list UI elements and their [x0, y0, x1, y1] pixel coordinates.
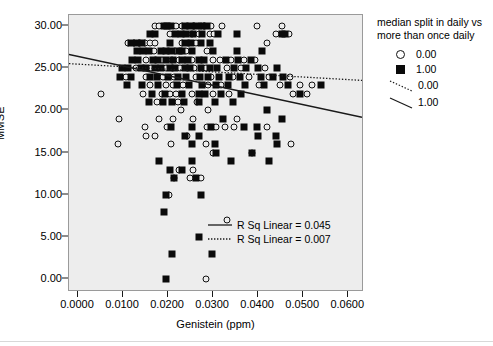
data-point-square [210, 48, 217, 55]
page-bottom-rule [0, 341, 493, 342]
data-point-square [155, 56, 162, 63]
data-point-square [182, 132, 189, 139]
data-point-square [233, 31, 240, 38]
data-point-square [174, 82, 181, 89]
data-point-circle [98, 90, 105, 97]
data-point-circle [210, 90, 217, 97]
data-point-square [206, 39, 213, 46]
data-point-square [189, 124, 196, 131]
data-point-square [235, 56, 242, 63]
data-point-square [163, 191, 170, 198]
data-point-circle [167, 141, 174, 148]
data-point-square [203, 22, 210, 29]
x-tick-label: 0.0300 [195, 298, 229, 310]
r-squared-row-dotted: R Sq Linear = 0.007 [208, 232, 331, 246]
data-point-circle [309, 82, 316, 89]
data-point-square [148, 90, 155, 97]
data-point-circle [188, 90, 195, 97]
data-point-square [183, 73, 190, 80]
data-point-circle [219, 22, 226, 29]
data-point-square [196, 73, 203, 80]
data-point-square [162, 90, 169, 97]
data-point-square [188, 158, 195, 165]
data-point-square [199, 31, 206, 38]
data-point-square [167, 22, 174, 29]
data-point-square [143, 65, 150, 72]
data-point-square [214, 31, 221, 38]
legend-label-1: 1.00 [416, 63, 436, 76]
data-point-square [172, 65, 179, 72]
data-point-square [197, 65, 204, 72]
data-point-square [146, 98, 153, 105]
data-point-square [257, 73, 264, 80]
legend-label-0: 0.00 [416, 48, 436, 61]
r-squared-annotations: R Sq Linear = 0.045 R Sq Linear = 0.007 [208, 218, 331, 246]
data-point-square [171, 174, 178, 181]
data-point-square [161, 208, 168, 215]
data-point-square [284, 82, 291, 89]
data-point-circle [264, 124, 271, 131]
legend-item-line-dotted: 0.00 [389, 77, 493, 94]
solid-line-swatch [208, 219, 232, 231]
data-point-square [224, 82, 231, 89]
data-point-square [166, 39, 173, 46]
data-point-square [274, 65, 281, 72]
dotted-line-swatch [208, 233, 232, 245]
data-point-square [163, 56, 170, 63]
data-point-square [212, 149, 219, 156]
data-point-square [213, 65, 220, 72]
data-point-square [159, 98, 166, 105]
x-axis-label: Genistein (ppm) [68, 318, 363, 330]
data-point-square [195, 132, 202, 139]
data-point-square [165, 73, 172, 80]
r-squared-label-solid: R Sq Linear = 0.045 [237, 218, 331, 232]
data-point-square [190, 31, 197, 38]
data-point-square [188, 141, 195, 148]
data-point-square [189, 48, 196, 55]
legend-item-square: 1.00 [389, 62, 493, 77]
data-point-square [241, 82, 248, 89]
data-point-circle [147, 82, 154, 89]
data-point-circle [226, 90, 233, 97]
data-point-square [254, 124, 261, 131]
x-tick-mark [122, 291, 123, 297]
data-point-square [168, 98, 175, 105]
data-point-square [135, 56, 142, 63]
data-point-square [168, 250, 175, 257]
x-tick-mark [167, 291, 168, 297]
data-point-square [318, 82, 325, 89]
solid-line-swatch [389, 96, 413, 110]
data-point-square [222, 56, 229, 63]
data-point-square [255, 132, 262, 139]
data-point-circle [210, 56, 217, 63]
data-point-square [274, 141, 281, 148]
data-point-square [154, 73, 161, 80]
data-point-square [155, 82, 162, 89]
data-point-square [233, 48, 240, 55]
x-tick-mark [257, 291, 258, 297]
data-point-square [179, 48, 186, 55]
data-point-circle [254, 22, 261, 29]
data-point-circle [190, 166, 197, 173]
data-point-circle [177, 107, 184, 114]
data-point-square [270, 73, 277, 80]
data-point-square [152, 31, 159, 38]
data-point-square [201, 56, 208, 63]
data-point-square [198, 39, 205, 46]
legend-item-circle: 0.00 [389, 47, 493, 62]
data-point-square [167, 124, 174, 131]
data-point-square [125, 65, 132, 72]
data-point-circle [303, 90, 310, 97]
data-point-circle [264, 39, 271, 46]
data-point-square [193, 174, 200, 181]
data-point-square [199, 82, 206, 89]
data-point-square [147, 73, 154, 80]
data-point-circle [276, 82, 283, 89]
legend: median split in daily vs more than once … [377, 16, 493, 111]
data-point-circle [287, 141, 294, 148]
data-point-square [211, 98, 218, 105]
data-point-square [185, 82, 192, 89]
x-tick-mark [347, 291, 348, 297]
data-point-circle [151, 132, 158, 139]
data-point-square [248, 149, 255, 156]
